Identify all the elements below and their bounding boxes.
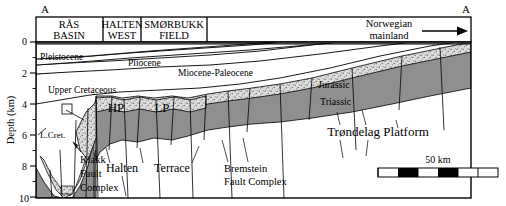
depth-tick-4: 4 xyxy=(22,99,27,110)
cross-section-svg: RÅS BASIN HALTEN WEST SMØRBUKK FIELD Nor… xyxy=(0,0,506,206)
depth-axis-title: Depth (km) xyxy=(5,95,17,144)
halten-word: Halten xyxy=(106,161,138,175)
section-label-left: A xyxy=(41,3,49,15)
block-label-lp: LP xyxy=(154,100,169,115)
label-miocene-paleocene: Miocene-Paleocene xyxy=(178,68,253,78)
depth-tick-6: 6 xyxy=(22,130,27,141)
depth-axis: Depth (km) 0 2 4 6 8 10 xyxy=(5,36,36,204)
header-box-1-line1: HALTEN xyxy=(101,19,142,30)
norwegian-mainland-line1: Norwegian xyxy=(366,18,413,29)
klakk-line1: Klakk xyxy=(80,154,106,165)
klakk-line2: Fault xyxy=(80,168,102,179)
klakk-small-block xyxy=(61,186,73,194)
label-upper-cretaceous: Upper Cretaceous xyxy=(48,85,117,95)
header-box-2-line2: FIELD xyxy=(159,30,189,41)
label-lower-cretaceous: L.Cret. xyxy=(40,130,66,140)
header-box-0-line1: RÅS xyxy=(59,19,80,30)
label-triassic: Triassic xyxy=(320,96,352,107)
klakk-line3: Complex xyxy=(80,182,119,193)
label-pleistocene: Pleistocene xyxy=(40,52,83,62)
header-box-1-line2: WEST xyxy=(108,30,137,41)
header-box-0-line2: BASIN xyxy=(53,30,85,41)
bremstein-line1: Bremstein xyxy=(224,163,268,174)
header-box-2-line1: SMØRBUKK xyxy=(144,19,204,30)
header-bar: RÅS BASIN HALTEN WEST SMØRBUKK FIELD Nor… xyxy=(36,17,471,42)
bremstein-line2: Fault Complex xyxy=(224,176,287,187)
depth-tick-2: 2 xyxy=(22,68,27,79)
depth-tick-0: 0 xyxy=(22,36,27,47)
section-label-right: A xyxy=(462,3,470,15)
depth-tick-8: 8 xyxy=(22,161,27,172)
block-label-hp: HP xyxy=(108,100,125,115)
label-jurassic: Jurassic xyxy=(318,79,350,90)
scale-bar-label: 50 km xyxy=(425,154,451,165)
trondelag-text: Trøndelag Platform xyxy=(327,124,429,139)
label-pliocene: Pliocene xyxy=(128,58,161,68)
norwegian-mainland-line2: mainland xyxy=(369,30,409,41)
terrace-word: Terrace xyxy=(154,161,190,175)
cross-section-figure: RÅS BASIN HALTEN WEST SMØRBUKK FIELD Nor… xyxy=(0,0,506,206)
depth-tick-10: 10 xyxy=(19,193,29,204)
